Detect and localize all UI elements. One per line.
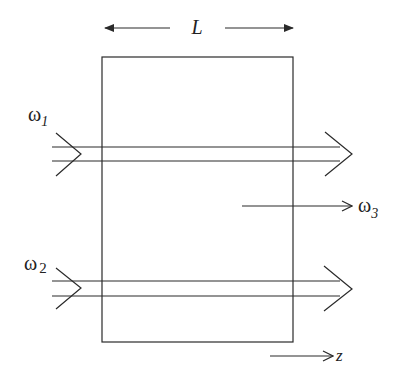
z-axis-label: z (335, 346, 343, 365)
diagram-canvas: L ω1 ω3 ω2 z (0, 0, 405, 380)
beam2-arrowhead (324, 266, 352, 311)
z-axis: z (270, 346, 343, 365)
beam1-arrowhead (325, 132, 352, 176)
omega1-label: ω1 (28, 103, 48, 129)
nonlinear-crystal (102, 57, 293, 342)
omega3-label: ω3 (358, 194, 378, 221)
length-label: L (190, 16, 202, 38)
beam1-tail-chevron (56, 133, 81, 176)
output-beam-omega3: ω3 (242, 194, 378, 221)
omega2-label: ω2 (24, 252, 47, 276)
input-beam-omega1: ω1 (28, 103, 352, 176)
length-indicator: L (105, 16, 293, 38)
input-beam-omega2: ω2 (24, 252, 352, 311)
beam2-tail-chevron (56, 268, 81, 309)
